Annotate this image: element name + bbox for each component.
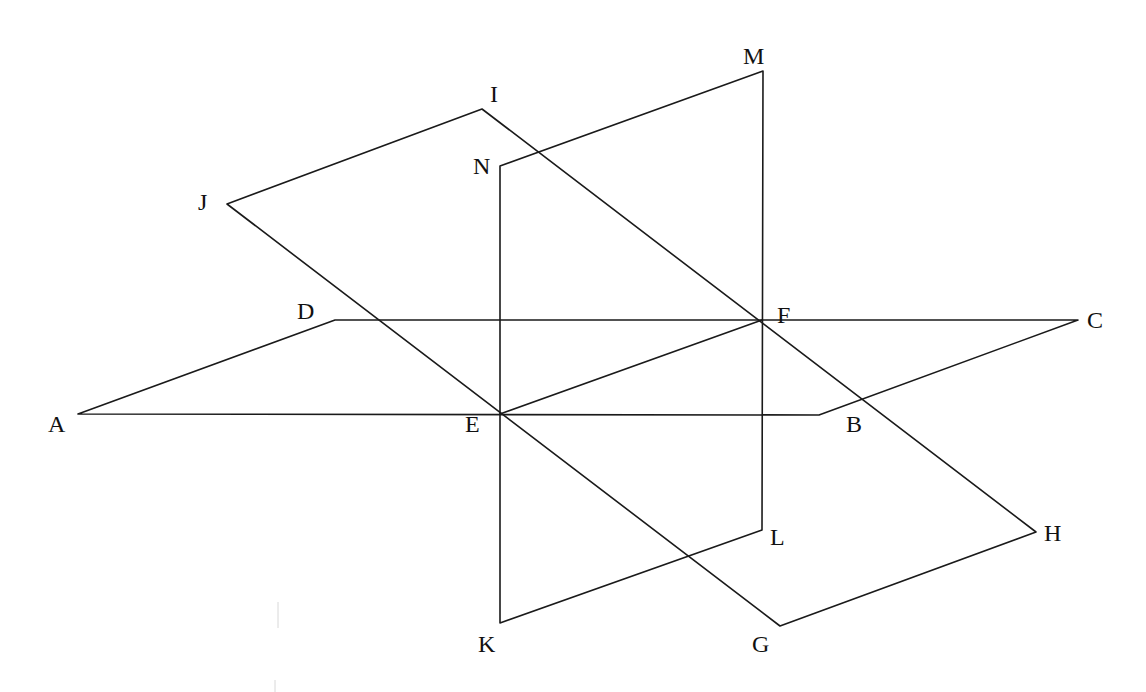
point-label-i: I <box>490 81 498 107</box>
point-label-b: B <box>846 411 862 437</box>
scan-artifacts <box>275 602 278 692</box>
point-label-g: G <box>752 631 769 657</box>
point-label-m: M <box>743 43 764 69</box>
point-label-a: A <box>48 411 66 437</box>
point-label-h: H <box>1044 520 1061 546</box>
planes-group <box>78 71 1078 626</box>
geometry-diagram: ABCDEFGHIJKLMN <box>0 0 1146 692</box>
plane-abcd <box>78 320 1078 415</box>
point-label-l: L <box>770 524 785 550</box>
point-label-k: K <box>478 631 496 657</box>
point-label-d: D <box>297 298 314 324</box>
point-label-f: F <box>777 302 790 328</box>
point-label-c: C <box>1087 307 1103 333</box>
point-label-j: J <box>198 189 207 215</box>
point-label-n: N <box>473 153 490 179</box>
segment-ef <box>500 320 762 414</box>
segments-group <box>500 320 762 414</box>
point-label-e: E <box>465 411 480 437</box>
